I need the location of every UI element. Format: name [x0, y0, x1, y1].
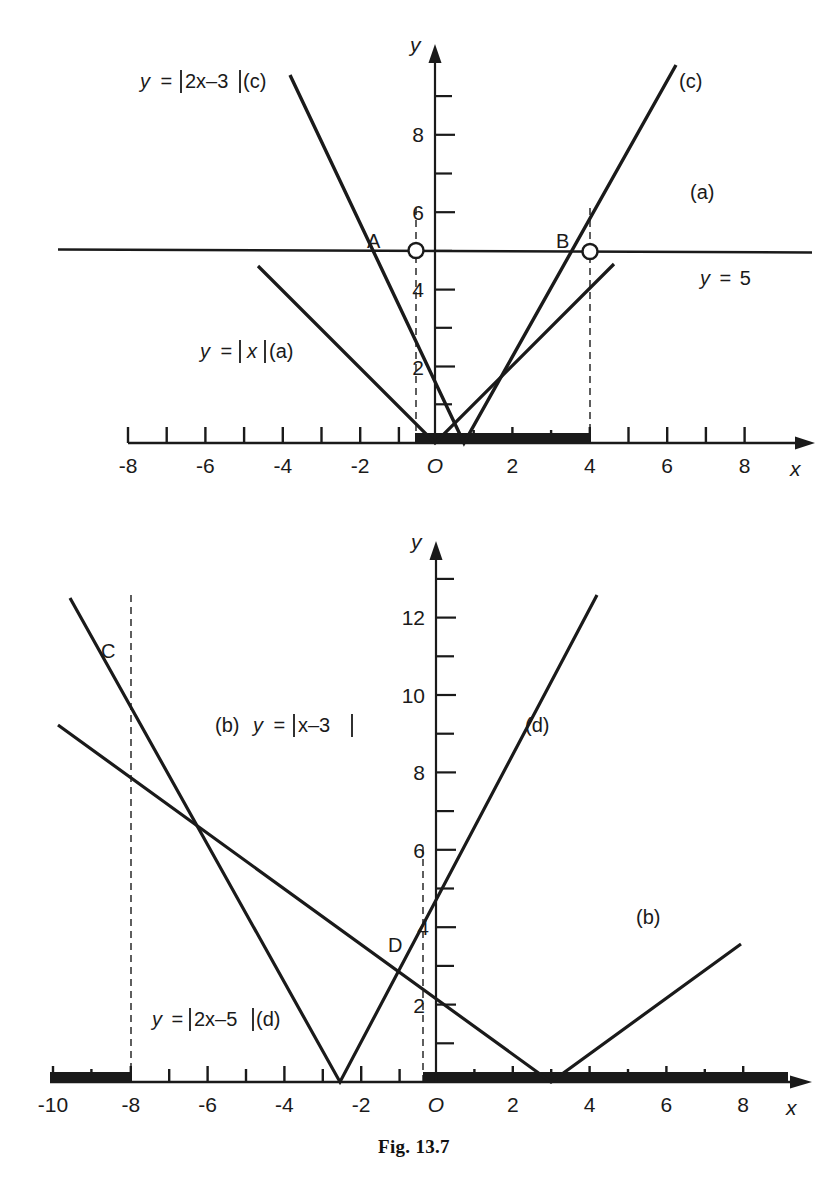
- xtick-label: 2: [507, 454, 519, 477]
- eq-a-equals: =: [221, 340, 233, 362]
- svg-text:(b): (b): [215, 714, 239, 736]
- xtick-label: 6: [661, 1093, 673, 1116]
- xtick-label: 4: [584, 1093, 596, 1116]
- ytick-label: 12: [402, 606, 425, 629]
- xtick-label: -4: [273, 454, 292, 477]
- eq-b-lhs: y: [251, 714, 264, 736]
- point-b-marker: [583, 244, 598, 259]
- x-axis-name: x: [789, 457, 802, 480]
- svg-text:2x–3: 2x–3: [185, 70, 228, 92]
- tag-curve-a: (a): [690, 181, 714, 203]
- xtick-label: 8: [737, 1093, 749, 1116]
- ytick-label: 2: [412, 356, 424, 379]
- svg-text:2x–5: 2x–5: [194, 1008, 237, 1030]
- point-a-marker: [409, 243, 424, 258]
- svg-text:y = 5: y = 5: [698, 267, 751, 289]
- xtick-label: -4: [275, 1093, 294, 1116]
- xtick-label: -6: [196, 454, 215, 477]
- eq-b-inner: x–3: [298, 714, 330, 736]
- ytick-label: 8: [413, 761, 425, 784]
- xtick-label: -8: [119, 454, 138, 477]
- xtick-label-origin: O: [427, 454, 443, 477]
- svg-text:(d): (d): [256, 1008, 280, 1030]
- svg-text:y =: y =: [138, 70, 172, 92]
- tag-curve-d: (d): [525, 714, 549, 736]
- annotation-curve-c-equation: y = 2x–3 (c): [138, 70, 266, 93]
- point-label-c: C: [101, 640, 115, 662]
- xtick-label-origin: O: [428, 1093, 444, 1116]
- figure-13-7: -8 -6 -4 -2 O 2 4 6 8 x 8 6 4 2 y y = 2x…: [0, 0, 828, 1199]
- curve-d-abs-2x-5: [70, 595, 597, 1082]
- xtick-label: -6: [198, 1093, 217, 1116]
- ytick-label: 8: [412, 123, 424, 146]
- eq-d-inner: 2x–5: [194, 1008, 237, 1030]
- eq-d-tag: (d): [256, 1008, 280, 1030]
- svg-text:(a): (a): [269, 340, 293, 362]
- ytick-label: 10: [402, 684, 425, 707]
- eq-a-tag: (a): [269, 340, 293, 362]
- annotation-line-y5: y = 5: [698, 267, 751, 289]
- xtick-label: -8: [121, 1093, 140, 1116]
- eq-a-inner: x: [246, 340, 258, 362]
- y-axis-name: y: [408, 33, 422, 56]
- graph-top: -8 -6 -4 -2 O 2 4 6 8 x 8 6 4 2 y y = 2x…: [0, 0, 828, 500]
- svg-text:(c): (c): [243, 70, 266, 92]
- svg-text:x–3: x–3: [298, 714, 330, 736]
- point-label-b: B: [556, 230, 569, 252]
- xtick-label: 8: [739, 454, 751, 477]
- svg-text:y =: y =: [198, 340, 232, 362]
- xtick-label: -10: [38, 1093, 68, 1116]
- ytick-label: 4: [417, 916, 429, 939]
- annotation-curve-d-equation: y = 2x–5 (d): [150, 1008, 280, 1031]
- y5-equals: =: [720, 267, 732, 289]
- figure-caption: Fig. 13.7: [0, 1136, 828, 1158]
- xtick-label: -2: [352, 1093, 371, 1116]
- y-axis-top: [429, 44, 456, 443]
- y-axis-bottom: [430, 541, 457, 1082]
- xtick-label: -2: [351, 454, 370, 477]
- tag-curve-c: (c): [679, 70, 702, 92]
- y-axis-name: y: [409, 530, 423, 553]
- tag-curve-b: (b): [636, 906, 660, 928]
- eq-b-equals: =: [274, 714, 286, 736]
- ytick-label: 6: [413, 839, 425, 862]
- y5-lhs: y: [698, 267, 711, 289]
- eq-c-inner: 2x–3: [185, 70, 228, 92]
- eq-c-lhs: y: [138, 70, 151, 92]
- ytick-label: 4: [412, 278, 424, 301]
- ytick-label: 6: [412, 201, 424, 224]
- xtick-label: 2: [507, 1093, 519, 1116]
- curve-c-abs-2x-3: [290, 65, 676, 443]
- line-y-equals-5: [58, 250, 812, 253]
- y5-rhs: 5: [740, 267, 751, 289]
- eq-c-equals: =: [161, 70, 173, 92]
- svg-text:x: x: [246, 340, 258, 362]
- svg-text:y =: y =: [251, 714, 285, 736]
- annotation-curve-a-equation: y = x (a): [198, 340, 293, 363]
- eq-d-equals: =: [172, 1008, 184, 1030]
- eq-d-lhs: y: [150, 1008, 163, 1030]
- x-axis-name: x: [785, 1096, 798, 1119]
- graph-bottom: -10 -8 -6 -4 -2 O 2 4 6 8 x 12 10 8 6 4 …: [0, 510, 828, 1130]
- eq-c-tag: (c): [243, 70, 266, 92]
- xtick-label: 6: [661, 454, 673, 477]
- svg-text:y =: y =: [150, 1008, 183, 1030]
- xtick-label: 4: [584, 454, 596, 477]
- annotation-curve-b-equation: (b) y = x–3: [215, 714, 352, 737]
- point-label-a: A: [367, 230, 381, 252]
- eq-b-tag: (b): [215, 714, 239, 736]
- point-label-d: D: [388, 934, 402, 956]
- ytick-label: 2: [413, 994, 425, 1017]
- eq-a-lhs: y: [198, 340, 211, 362]
